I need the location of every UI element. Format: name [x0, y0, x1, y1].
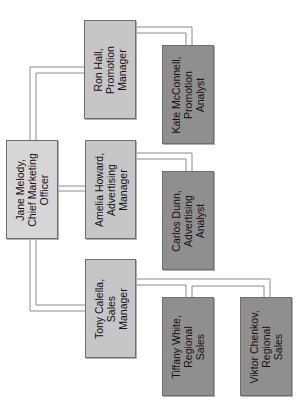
node-label: Jane Melody, Chief Marketing Officer	[14, 142, 50, 238]
node-ron-hall: Ron Hall, Promotion Manager	[84, 20, 136, 119]
node-label: Amelia Howard, Advertising Manager	[93, 142, 129, 238]
node-label: Ron Hall, Promotion Manager	[92, 22, 128, 118]
node-tiffany-white: Tiffany White, Regional Sales	[162, 297, 214, 396]
node-amelia-howard: Amelia Howard, Advertising Manager	[85, 140, 136, 239]
node-jane-melody: Jane Melody, Chief Marketing Officer	[6, 140, 58, 239]
node-kate-mcconnell: Kate McConnell, Promotion Analyst	[162, 45, 214, 144]
node-tony-calella: Tony Calella, Sales Manager	[85, 259, 136, 358]
node-label: Carlos Dunn, Advertising Analyst	[170, 173, 206, 269]
node-label: Kate McConnell, Promotion Analyst	[170, 47, 206, 143]
node-label: Tony Calella, Sales Manager	[93, 261, 129, 357]
org-chart: Jane Melody, Chief Marketing Officer Ron…	[0, 0, 307, 411]
node-label: Tiffany White, Regional Sales	[170, 299, 206, 395]
node-carlos-dunn: Carlos Dunn, Advertising Analyst	[162, 171, 214, 270]
node-label: Viktor Chenkov, Regional Sales	[248, 299, 284, 395]
node-viktor-chenkov: Viktor Chenkov, Regional Sales	[240, 297, 292, 396]
